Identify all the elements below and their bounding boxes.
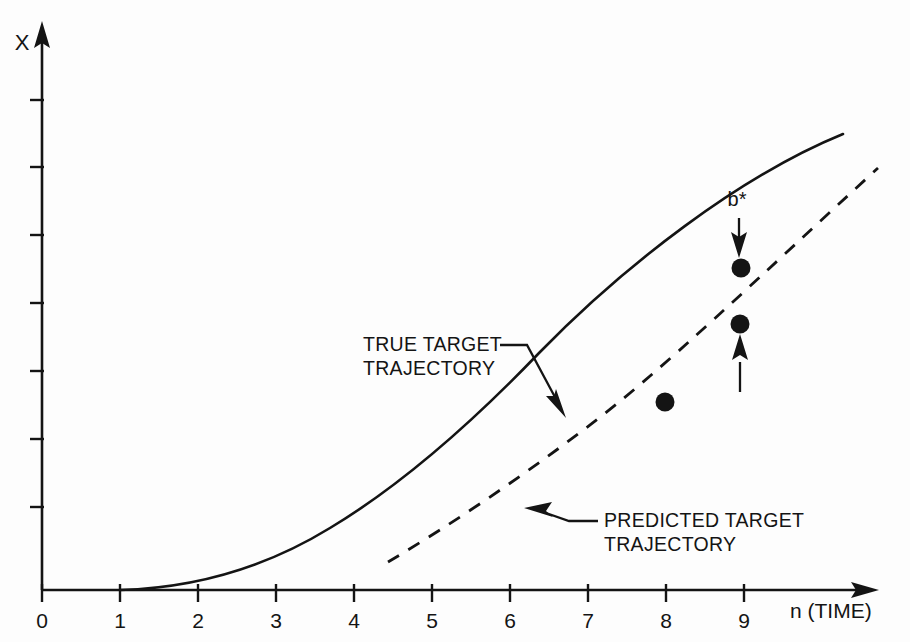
x-tick-label: 5 [426,609,438,632]
x-axis-ticks [42,584,744,602]
b-star-label: b* [728,188,747,210]
x-tick-label: 2 [192,609,204,632]
x-tick-label: 6 [504,609,516,632]
true-trajectory-arrow-icon [546,389,566,418]
x-tick-label: 9 [738,609,750,632]
predicted-point-arrow-up-icon [732,334,748,360]
true-trajectory-leader-line [500,345,556,399]
x-tick-label: 0 [36,609,48,632]
data-point-predicted-n8 [656,393,675,412]
x-tick-label: 7 [582,609,594,632]
x-tick-label: 4 [348,609,360,632]
true-trajectory-label-line1: TRUE TARGET [363,333,502,355]
y-axis-label: X [15,30,30,55]
plot-canvas: 0 1 2 3 4 5 6 7 8 9 X n (TIME) [0,0,910,642]
true-trajectory-label-line2: TRAJECTORY [363,357,495,379]
x-tick-label: 8 [660,609,672,632]
axis-group: 0 1 2 3 4 5 6 7 8 9 X n (TIME) [15,21,879,632]
data-point-predicted-n9 [731,315,750,334]
predicted-trajectory-label-line1: PREDICTED TARGET [604,509,804,531]
data-points-group [656,259,751,412]
x-tick-label: 1 [114,609,126,632]
x-tick-label: 3 [270,609,282,632]
predicted-trajectory-label-line2: TRAJECTORY [604,533,736,555]
true-trajectory-callout: TRUE TARGET TRAJECTORY [363,333,566,418]
trajectory-figure: 0 1 2 3 4 5 6 7 8 9 X n (TIME) [0,0,910,642]
x-axis-label: n (TIME) [790,599,872,622]
predicted-trajectory-leader-line [546,513,598,521]
predicted-trajectory-arrow-icon [524,502,553,517]
b-star-annotation: b* [728,188,748,392]
x-axis-tick-labels: 0 1 2 3 4 5 6 7 8 9 [36,609,750,632]
data-point-b-star [732,259,751,278]
predicted-trajectory-callout: PREDICTED TARGET TRAJECTORY [524,502,804,555]
